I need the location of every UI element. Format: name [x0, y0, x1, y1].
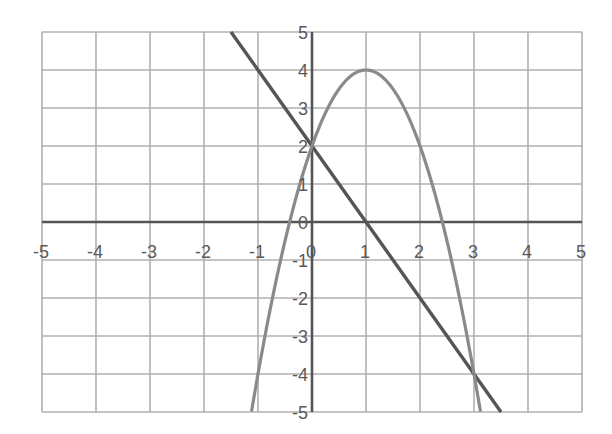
y-tick-label: -1: [292, 251, 308, 271]
y-tick-label: -2: [292, 289, 308, 309]
axes: [42, 32, 582, 412]
x-tick-label: 1: [360, 242, 370, 262]
x-tick-label: -1: [249, 242, 265, 262]
y-tick-label: 5: [298, 23, 308, 43]
y-tick-label: 3: [298, 99, 308, 119]
x-tick-label: -2: [195, 242, 211, 262]
coordinate-plane-chart: -5-4-3-2-1012345 543210-1-2-3-4-5: [0, 0, 612, 434]
y-tick-label: -5: [292, 403, 308, 423]
x-tick-label: -5: [33, 242, 49, 262]
y-tick-label: -3: [292, 327, 308, 347]
x-tick-label: 3: [468, 242, 478, 262]
x-tick-label: -4: [87, 242, 103, 262]
y-tick-label: -4: [292, 365, 308, 385]
y-tick-label: 4: [298, 61, 308, 81]
y-tick-label: 2: [298, 137, 308, 157]
x-tick-label: 4: [522, 242, 532, 262]
y-tick-label: 1: [298, 175, 308, 195]
x-tick-label: -3: [141, 242, 157, 262]
x-tick-labels: -5-4-3-2-1012345: [33, 242, 586, 262]
y-tick-label: 0: [298, 213, 308, 233]
x-tick-label: 5: [576, 242, 586, 262]
x-tick-label: 2: [414, 242, 424, 262]
